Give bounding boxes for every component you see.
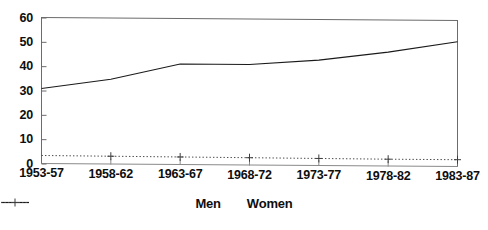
line-chart-figure: 0102030405060 1953-571958-621963-671968-… xyxy=(0,0,488,230)
legend-label-men: Men xyxy=(195,196,220,211)
x-axis-tick-label: 1978-82 xyxy=(348,170,428,183)
x-axis-tick-label: 1973-77 xyxy=(279,169,359,182)
legend-label-women: Women xyxy=(247,196,293,211)
legend-entry-men: Men xyxy=(195,196,220,211)
y-axis-tick-label: 30 xyxy=(3,85,33,97)
x-axis-tick-label: 1983-87 xyxy=(418,170,488,183)
y-axis-tick-label: 40 xyxy=(3,60,33,72)
x-axis-tick-label: 1953-57 xyxy=(2,167,82,180)
plot-frame xyxy=(41,18,458,167)
y-axis-tick-label: 20 xyxy=(3,109,33,121)
x-axis-tick-label: 1968-72 xyxy=(210,169,290,182)
chart-legend: Men Women xyxy=(0,196,488,211)
y-axis-ticks xyxy=(42,18,47,164)
x-axis-tick-label: 1958-62 xyxy=(71,168,151,181)
legend-entry-women: Women xyxy=(247,196,293,211)
series-line-men xyxy=(42,42,458,89)
y-axis-tick-label: 60 xyxy=(3,12,33,24)
series-group xyxy=(42,42,462,164)
legend-dotted-plus-icon-women xyxy=(0,196,30,208)
x-axis-tick-label: 1963-67 xyxy=(140,168,220,181)
y-axis-tick-label: 50 xyxy=(3,36,33,48)
y-axis-tick-label: 10 xyxy=(3,133,33,145)
